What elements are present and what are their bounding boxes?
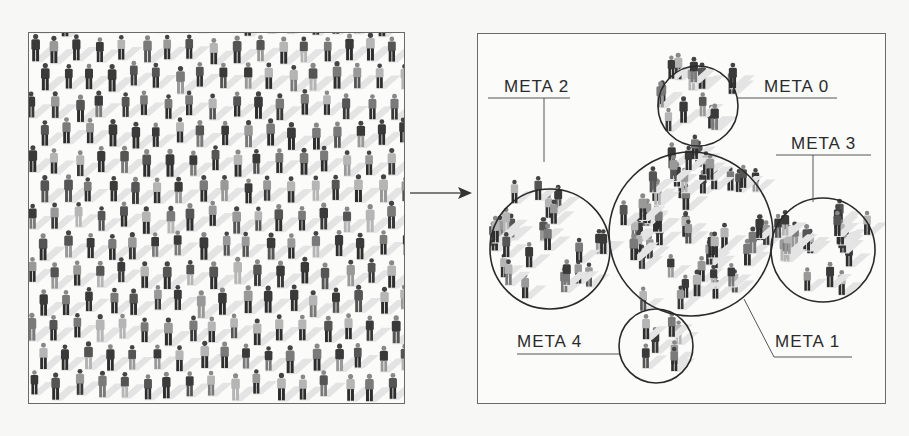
cluster-label-meta3: META 3 xyxy=(791,134,856,154)
crowd-illustration xyxy=(29,33,404,403)
arrow-head-icon xyxy=(458,187,472,199)
meta1-leader xyxy=(744,299,774,357)
cluster-label-meta0: META 0 xyxy=(764,77,829,97)
clustered-panel: META 2 META 0 META 3 META 4 META 1 xyxy=(477,33,886,404)
crowd-panel xyxy=(28,32,405,404)
cluster-label-meta2: META 2 xyxy=(504,77,569,97)
cluster-label-meta4: META 4 xyxy=(517,332,582,352)
cluster-label-meta1: META 1 xyxy=(775,332,840,352)
